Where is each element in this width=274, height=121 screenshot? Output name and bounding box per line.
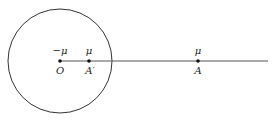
- point-label-A-prime: A′: [84, 65, 95, 76]
- charge-label-O: −μ: [53, 45, 68, 56]
- image-charge-diagram: −μ O μ A′ μ A: [0, 0, 274, 121]
- point-O: [58, 59, 62, 63]
- point-A-prime: [87, 59, 91, 63]
- charge-label-A-prime: μ: [86, 45, 93, 56]
- point-label-A: A: [193, 65, 201, 76]
- charge-label-A: μ: [195, 45, 202, 56]
- point-label-O: O: [56, 65, 64, 76]
- point-A: [196, 59, 200, 63]
